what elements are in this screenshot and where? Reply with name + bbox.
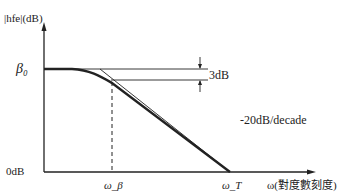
slope-label: -20dB/decade — [240, 114, 307, 126]
omega-beta-tick-label: ω_β — [104, 180, 123, 191]
x-axis-arrow-icon — [307, 170, 316, 175]
3db-label: 3dB — [209, 69, 229, 81]
x-axis-label: ω(對度數刻度) — [267, 180, 337, 191]
omega-t-tick-label: ω_T — [222, 180, 241, 191]
response-curve — [44, 69, 230, 172]
beta0-tick-label: β₀ — [16, 62, 28, 76]
asymptote-line — [44, 69, 230, 172]
bode-plot — [0, 0, 359, 196]
zero-db-tick-label: 0dB — [6, 166, 24, 177]
arrow-up-icon — [198, 80, 202, 85]
y-axis-label: |hfe|(dB) — [4, 13, 43, 24]
arrow-down-icon — [198, 64, 202, 69]
